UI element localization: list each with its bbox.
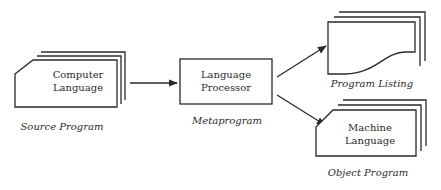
node-label-line-1: Computer <box>53 69 104 80</box>
object-program-node: Machine Language <box>316 100 426 156</box>
program-listing-node <box>328 12 425 74</box>
node-label-line-2: Language <box>345 135 395 146</box>
node-label-line-1: Language <box>201 69 251 80</box>
diagram-canvas: Computer Language Source Program Languag… <box>0 0 441 190</box>
node-label-line-2: Language <box>53 82 103 93</box>
metaprogram-caption: Metaprogram <box>191 115 262 126</box>
node-label-line-1: Machine <box>348 122 392 133</box>
program-listing-caption: Program Listing <box>330 78 413 89</box>
arrow-processor-to-listing <box>277 46 326 77</box>
card-front <box>316 110 416 156</box>
source-program-node: Computer Language <box>15 52 125 107</box>
object-program-caption: Object Program <box>328 167 409 178</box>
source-program-caption: Source Program <box>21 121 104 132</box>
node-label-line-2: Processor <box>201 82 251 93</box>
arrow-processor-to-object <box>277 95 325 125</box>
listing-front-page <box>328 22 415 74</box>
language-processor-node: Language Processor <box>180 59 272 104</box>
